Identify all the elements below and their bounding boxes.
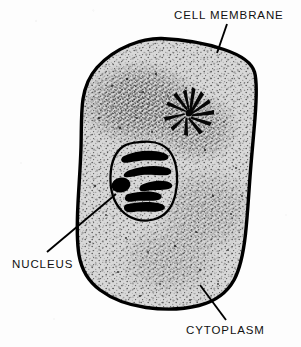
cell-diagram-canvas	[0, 0, 301, 347]
label-nucleus: NUCLEUS	[12, 258, 73, 270]
cell-diagram-figure: CELL MEMBRANE NUCLEUS CYTOPLASM	[0, 0, 301, 347]
label-cytoplasm: CYTOPLASM	[186, 324, 265, 336]
label-cell-membrane: CELL MEMBRANE	[174, 9, 284, 21]
